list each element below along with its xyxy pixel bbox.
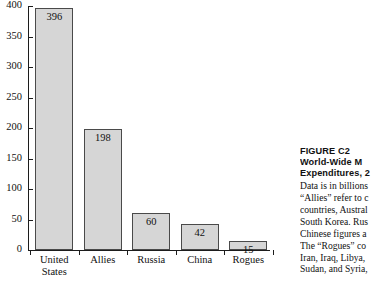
y-tick-mark	[28, 37, 33, 38]
bar: 15	[229, 241, 267, 250]
caption-line: Sudan, and Syria,	[300, 263, 382, 274]
x-category-label: Rogues	[224, 254, 273, 266]
caption-line: Chinese figures a	[300, 228, 382, 239]
y-tick-label: 50	[0, 214, 22, 224]
figure-page: 050100150200250300350400 396198604215 Un…	[0, 0, 382, 290]
bar: 396	[35, 8, 73, 250]
bar: 198	[84, 129, 122, 250]
y-tick-mark	[28, 159, 33, 160]
caption-line: Data is in billions	[300, 180, 382, 191]
bar: 42	[181, 224, 219, 250]
caption-line: South Korea. Rus	[300, 216, 382, 227]
x-category-label: United States	[30, 254, 79, 277]
figure-number: FIGURE C2	[300, 146, 382, 157]
bar-value-label: 42	[182, 227, 218, 238]
caption-line: The “Rogues” co	[300, 240, 382, 251]
bar-chart: 050100150200250300350400 396198604215 Un…	[0, 0, 278, 290]
y-tick-mark	[28, 6, 33, 7]
y-tick-mark	[28, 220, 33, 221]
figure-title-line-1: World-Wide M	[300, 157, 382, 168]
figure-title-line-2: Expenditures, 2	[300, 168, 382, 179]
y-tick-mark	[28, 189, 33, 190]
caption-line: “Allies” refer to c	[300, 192, 382, 203]
caption-line: countries, Austral	[300, 204, 382, 215]
x-tick-mark	[273, 250, 274, 255]
y-tick-label: 150	[0, 153, 22, 163]
y-tick-mark	[28, 128, 33, 129]
y-tick-label: 100	[0, 183, 22, 193]
bar: 60	[132, 213, 170, 250]
y-tick-label: 400	[0, 0, 22, 10]
x-category-label: Russia	[127, 254, 176, 266]
y-tick-label: 0	[0, 244, 22, 254]
y-tick-mark	[28, 98, 33, 99]
bar-value-label: 60	[133, 216, 169, 227]
bar-value-label: 396	[36, 11, 72, 22]
y-tick-label: 350	[0, 31, 22, 41]
y-tick-label: 250	[0, 92, 22, 102]
x-category-label: China	[176, 254, 225, 266]
figure-caption-body: Data is in billions“Allies” refer to cco…	[300, 180, 382, 275]
bar-value-label: 198	[85, 132, 121, 143]
y-tick-label: 300	[0, 61, 22, 71]
x-category-label: Allies	[79, 254, 128, 266]
figure-caption: FIGURE C2 World-Wide M Expenditures, 2 D…	[300, 146, 382, 286]
y-tick-mark	[28, 67, 33, 68]
caption-line: Iran, Iraq, Libya,	[300, 252, 382, 263]
y-tick-label: 200	[0, 122, 22, 132]
